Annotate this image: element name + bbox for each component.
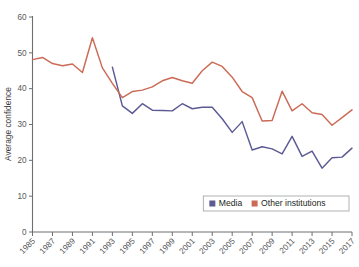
x-tick-label: 2005 <box>218 236 238 256</box>
legend-label-other-institutions: Other institutions <box>261 198 325 208</box>
x-tick-label: 2007 <box>238 236 258 256</box>
y-tick-label: 30 <box>17 120 27 129</box>
y-tick-label: 20 <box>17 156 27 165</box>
y-tick-label: 40 <box>17 84 27 93</box>
y-tick-label: 10 <box>17 192 27 201</box>
x-tick-label: 2001 <box>178 236 198 256</box>
x-tick-label: 2013 <box>297 236 317 256</box>
x-tick-label: 1999 <box>158 236 178 256</box>
series-lines <box>33 38 353 168</box>
x-tick-label: 2003 <box>198 236 218 256</box>
y-tick-label: 60 <box>17 13 27 22</box>
x-tick-label: 2017 <box>337 236 357 256</box>
series-media <box>112 67 352 168</box>
legend-swatch-other-institutions <box>252 201 258 207</box>
chart-legend: MediaOther institutions <box>203 196 349 211</box>
y-tick-label: 50 <box>17 49 27 58</box>
x-tick-label: 1985 <box>18 236 38 256</box>
x-tick-label: 1995 <box>118 236 138 256</box>
y-tick-label: 0 <box>22 228 27 237</box>
series-other-institutions <box>33 38 353 125</box>
legend-label-media: Media <box>219 198 243 208</box>
x-axis: 1985198719891991199319951997199920012003… <box>18 232 357 256</box>
line-chart: 0102030405060 19851987198919911993199519… <box>0 0 359 267</box>
x-tick-label: 1997 <box>138 236 158 256</box>
x-tick-label: 1989 <box>58 236 78 256</box>
legend-swatch-media <box>209 201 215 207</box>
y-axis-title: Average confidence <box>3 87 13 161</box>
y-axis: 0102030405060 <box>17 13 32 237</box>
x-tick-label: 2009 <box>257 236 277 256</box>
chart-container: 0102030405060 19851987198919911993199519… <box>0 0 359 267</box>
x-tick-label: 1991 <box>78 236 98 256</box>
x-tick-label: 1993 <box>98 236 118 256</box>
x-tick-label: 2015 <box>317 236 337 256</box>
x-tick-label: 1987 <box>38 236 58 256</box>
x-tick-label: 2011 <box>278 236 297 255</box>
